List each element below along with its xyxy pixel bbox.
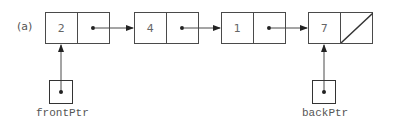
pointer-dot-icon (59, 90, 63, 94)
pointer-dot-icon (322, 90, 326, 94)
front-pointer-box (49, 80, 73, 104)
back-pointer-box (312, 80, 336, 104)
front-pointer-label: frontPtr (36, 107, 89, 119)
back-pointer-label: backPtr (302, 107, 348, 119)
